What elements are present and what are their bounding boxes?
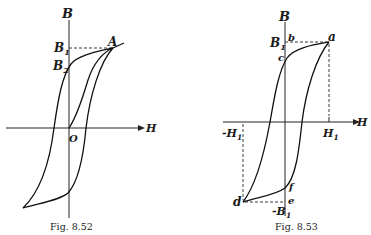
b2-label: B2: [52, 59, 69, 75]
point-d-label: d: [233, 195, 242, 209]
h1-label: H1: [322, 127, 339, 142]
origin-label: O: [69, 133, 78, 144]
b1-label: B1: [53, 41, 70, 57]
point-e-label: e: [288, 195, 294, 206]
figure-8-52: B H O B1 B2 A Fig. 8.52: [6, 6, 157, 232]
figure-caption: Fig. 8.52: [50, 221, 93, 232]
initial-magnetization-curve: [69, 43, 124, 128]
neg-h1-label: -H1: [222, 127, 242, 142]
hysteresis-figures: B H O B1 B2 A Fig. 8.52 B H B1 b c a H1 …: [0, 0, 371, 235]
point-a-label: A: [107, 35, 117, 49]
h-axis-label: H: [145, 122, 157, 135]
h-axis-arrow-icon: [138, 125, 145, 131]
b-axis-label: B: [278, 9, 290, 24]
neg-b1-label: -B1: [272, 205, 291, 220]
figure-8-53: B H B1 b c a H1 -H1 d e f -B1 Fig. 8.53: [222, 9, 368, 232]
b1-label: B1: [269, 36, 286, 52]
point-c-label: c: [278, 52, 284, 63]
h-axis-label: H: [356, 116, 368, 129]
point-b-label: b: [288, 32, 295, 43]
point-f-label: f: [288, 181, 295, 192]
point-a-label: a: [328, 30, 336, 44]
b-axis-label: B: [61, 6, 73, 21]
figure-caption: Fig. 8.53: [275, 221, 318, 232]
